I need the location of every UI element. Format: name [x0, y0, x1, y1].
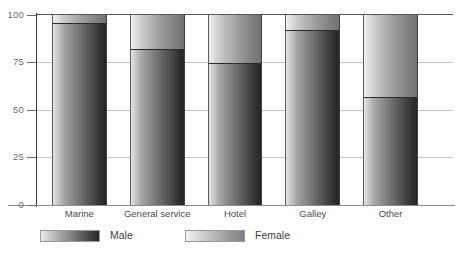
stacked-bar-chart: 100 75 50 25 0 MarineGeneral serviceHote… [0, 0, 459, 254]
bar-segment-divider [130, 49, 185, 50]
bar-segment-male [130, 49, 185, 205]
legend-swatch-male [40, 230, 100, 242]
y-tick-label-0: 0 [0, 199, 24, 210]
bar-segment-male [208, 63, 263, 206]
legend-label-male: Male [110, 229, 133, 241]
bar-segment-male [52, 23, 107, 205]
y-tick-label-100: 100 [0, 9, 24, 20]
bar-segment-male [285, 30, 340, 205]
legend-label-female: Female [255, 229, 290, 241]
bar-segment-female [285, 15, 340, 30]
y-tick-25 [27, 157, 36, 158]
y-tick-75 [27, 62, 36, 63]
bar-segment-female [130, 15, 185, 49]
bar-other[interactable] [363, 15, 418, 205]
bar-general-service[interactable] [130, 15, 185, 205]
x-axis-line [8, 205, 455, 206]
y-tick-0 [27, 205, 36, 206]
y-tick-label-50: 50 [0, 104, 24, 115]
bar-marine[interactable] [52, 15, 107, 205]
bar-segment-divider [285, 30, 340, 31]
y-tick-label-25: 25 [0, 151, 24, 162]
chart-legend: Male Female [0, 228, 459, 250]
bar-segment-female [208, 15, 263, 63]
y-axis-line [36, 13, 37, 207]
legend-swatch-female [185, 230, 245, 242]
bar-hotel[interactable] [208, 15, 263, 205]
bar-segment-female [52, 15, 107, 23]
bar-galley[interactable] [285, 15, 340, 205]
bar-segment-divider [363, 97, 418, 98]
x-label-other: Other [341, 208, 441, 219]
y-tick-50 [27, 110, 36, 111]
y-tick-100 [27, 15, 36, 16]
bar-segment-female [363, 15, 418, 97]
bar-segment-male [363, 97, 418, 205]
y-tick-label-75: 75 [0, 56, 24, 67]
bar-segment-divider [208, 63, 263, 64]
bar-segment-divider [52, 23, 107, 24]
